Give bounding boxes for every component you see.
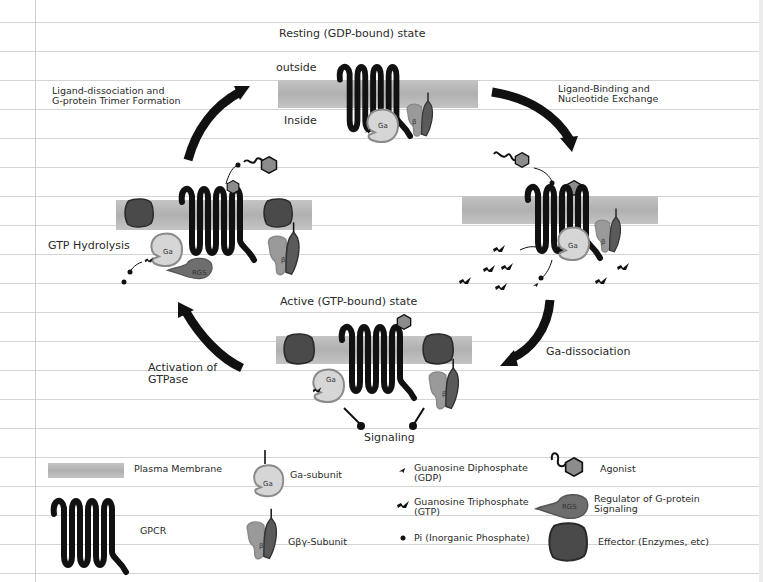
signaling-label: Signaling xyxy=(364,432,415,444)
step-activation-gtpase: Activation of GTPase xyxy=(148,362,217,386)
ga-subunit xyxy=(313,370,344,403)
step-text: GTPase xyxy=(148,374,217,386)
svg-text:β: β xyxy=(442,390,446,398)
outside-label: outside xyxy=(276,62,317,74)
svg-text:RGS: RGS xyxy=(562,503,577,511)
gby-subunit xyxy=(268,222,299,274)
step-ga-dissociation: Ga-dissociation xyxy=(546,346,630,358)
legend-plasma-membrane xyxy=(48,463,124,478)
effector xyxy=(423,334,453,364)
legend-label-effector: Effector (Enzymes, etc) xyxy=(598,537,709,547)
step-text: Nucleotide Exchange xyxy=(558,94,658,104)
legend-label-ga-subunit: Ga-subunit xyxy=(290,470,342,480)
agonist-bound xyxy=(227,181,239,194)
legend-gpcr xyxy=(54,501,126,572)
legend-text: (GDP) xyxy=(414,473,528,483)
gtp-icon xyxy=(617,263,629,270)
legend-pi-icon xyxy=(401,536,406,541)
gdp-icon xyxy=(533,283,538,288)
effector xyxy=(125,199,153,227)
svg-text:Ga: Ga xyxy=(163,248,173,256)
step-gtp-hydrolysis: GTP Hydrolysis xyxy=(48,240,130,252)
legend-effector xyxy=(549,523,587,560)
gtp-icon xyxy=(501,263,513,270)
agonist-tail xyxy=(494,152,516,160)
effector xyxy=(284,334,314,364)
resting-state-title: Resting (GDP-bound) state xyxy=(279,28,425,40)
signaling-line xyxy=(414,408,424,424)
agonist-released xyxy=(262,157,277,174)
agonist-bound xyxy=(397,315,410,330)
legend-label-plasma-membrane: Plasma Membrane xyxy=(134,464,222,474)
svg-text:Ga: Ga xyxy=(326,376,336,384)
legend-label-agonist: Agonist xyxy=(600,464,636,474)
legend-text: Signaling xyxy=(594,504,700,514)
arrow-activation-gtpase xyxy=(186,312,242,368)
inside-label: Inside xyxy=(284,115,317,127)
legend-label-rgs: Regulator of G-protein Signaling xyxy=(594,494,700,514)
active-state-figure: Ga β xyxy=(276,315,472,430)
agonist xyxy=(515,153,528,168)
nucleotide-exchange-figure: Ga β xyxy=(459,152,658,290)
gtp-icon xyxy=(483,265,495,272)
step-ligand-binding: Ligand-Binding and Nucleotide Exchange xyxy=(558,84,658,104)
legend-gdp-icon xyxy=(399,468,405,473)
arrow-ga-dissociation xyxy=(512,300,550,358)
svg-text:Ga: Ga xyxy=(378,122,388,130)
legend-label-pi: Pi (Inorganic Phosphate) xyxy=(414,533,530,543)
legend-label-gtp: Guanosine Triphosphate (GTP) xyxy=(414,497,529,517)
legend-label-gdp: Guanosine Diphosphate (GDP) xyxy=(414,463,528,483)
resting-state-figure: Ga β xyxy=(278,67,478,142)
gtp-icon xyxy=(459,277,471,284)
gtp-icon xyxy=(495,283,507,290)
svg-text:RGS: RGS xyxy=(192,269,207,277)
arrow-trimer-formation xyxy=(188,92,240,160)
svg-text:β: β xyxy=(281,256,285,264)
legend-text: (GTP) xyxy=(414,507,529,517)
signaling-line xyxy=(344,408,360,424)
legend-gby-subunit xyxy=(247,509,276,559)
legend-label-gby-subunit: Gβγ-Subunit xyxy=(288,537,347,547)
svg-text:Ga: Ga xyxy=(263,480,273,488)
svg-text:β: β xyxy=(412,118,416,126)
legend-label-gpcr: GPCR xyxy=(140,526,166,536)
gtp-icon xyxy=(595,277,607,284)
step-text: G-protein Trimer Formation xyxy=(52,96,181,106)
legend-agonist xyxy=(566,458,583,476)
step-ligand-dissociation: Ligand-dissociation and G-protein Trimer… xyxy=(52,86,181,106)
gby-subunit xyxy=(429,359,458,409)
gtp-icon xyxy=(493,245,505,252)
effector xyxy=(264,199,292,227)
svg-text:β: β xyxy=(259,542,263,550)
gtp-hydrolysis-figure: Ga RGS β xyxy=(116,157,312,285)
active-state-title: Active (GTP-bound) state xyxy=(280,296,417,308)
svg-text:β: β xyxy=(601,238,605,246)
legend-gtp-icon xyxy=(397,501,409,508)
svg-text:Ga: Ga xyxy=(568,242,578,250)
